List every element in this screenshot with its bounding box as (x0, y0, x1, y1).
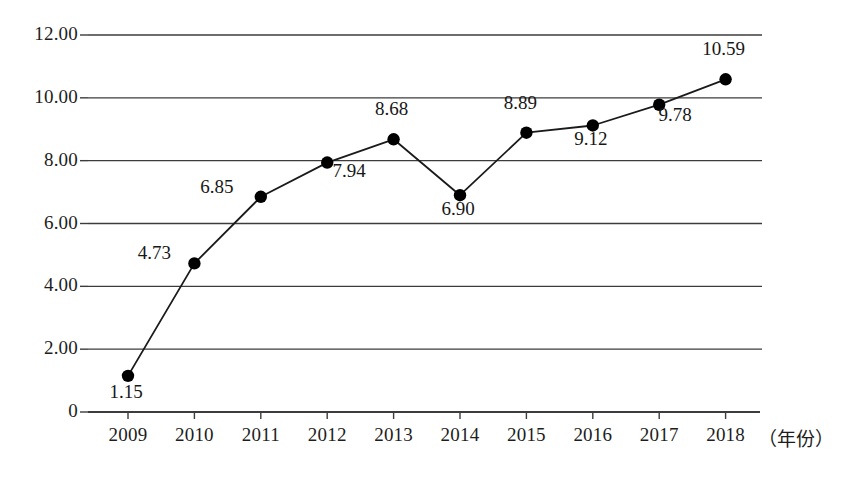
gridlines-group (88, 35, 762, 412)
data-point-marker (719, 73, 731, 85)
data-point-marker (387, 133, 399, 145)
data-point-value-label: 7.94 (319, 160, 379, 182)
y-axis-tick-label: 0 (4, 400, 78, 422)
x-axis-tick-label: 2015 (491, 424, 561, 446)
data-point-value-label: 6.90 (428, 198, 488, 220)
y-axis-tick-label: 6.00 (4, 212, 78, 234)
data-point-value-label: 1.15 (96, 381, 156, 403)
data-line (128, 79, 726, 376)
y-axis-tick-label: 2.00 (4, 337, 78, 359)
data-point-marker (520, 127, 532, 139)
data-point-value-label: 8.68 (362, 98, 422, 120)
data-point-value-label: 9.78 (645, 104, 705, 126)
x-axis-tick-label: 2014 (425, 424, 495, 446)
y-axis-tick-label: 4.00 (4, 274, 78, 296)
x-axis-tick-label: 2010 (159, 424, 229, 446)
data-markers-group (122, 73, 732, 382)
x-axis-tick-label: 2009 (93, 424, 163, 446)
chart-plot-area (0, 0, 856, 477)
x-axis-tick-label: 2013 (359, 424, 429, 446)
line-chart: 12.0010.008.006.004.002.000 200920102011… (0, 0, 856, 477)
x-axis-tick-label: 2017 (624, 424, 694, 446)
y-axis-tick-label: 10.00 (4, 86, 78, 108)
y-axis-tick-label: 12.00 (4, 23, 78, 45)
y-axis-tick-label: 8.00 (4, 149, 78, 171)
x-axis-tick-label: 2018 (691, 424, 761, 446)
x-axis-tick-label: 2011 (226, 424, 296, 446)
data-point-marker (255, 191, 267, 203)
x-axis-unit-label: （年份） (758, 424, 834, 451)
data-point-value-label: 6.85 (187, 176, 247, 198)
data-point-marker (188, 257, 200, 269)
x-axis-ticks-group (80, 35, 726, 419)
data-point-value-label: 9.12 (561, 128, 621, 150)
x-axis-tick-label: 2012 (292, 424, 362, 446)
x-axis-tick-label: 2016 (558, 424, 628, 446)
data-point-value-label: 4.73 (124, 242, 184, 264)
data-point-value-label: 10.59 (694, 38, 754, 60)
data-point-value-label: 8.89 (490, 92, 550, 114)
